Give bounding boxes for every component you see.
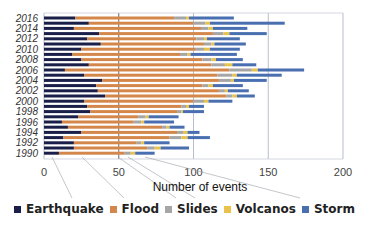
x-tick-label: 200 [334,166,352,178]
bar-1997 [44,115,179,118]
bar-2001 [44,95,255,98]
bar-segment-earthquake [44,53,72,56]
bar-2015 [44,22,285,25]
bar-segment-earthquake [44,136,63,139]
bar-segment-flood [72,53,180,56]
bar-segment-volcanos [186,105,189,108]
bar-segment-slides [162,126,166,129]
bar-segment-volcanos [225,89,228,92]
bar-segment-storm [188,136,210,139]
bar-segment-flood [68,126,162,129]
bar-segment-volcanos [232,95,236,98]
legend-swatch-icon [224,206,231,213]
x-axis-title: Number of events [153,180,248,194]
y-tick-label: 2002 [15,85,39,96]
bar-segment-storm [210,48,240,51]
bar-segment-storm [183,110,204,113]
bar-segment-earthquake [44,95,105,98]
bar-segment-earthquake [44,37,87,40]
bar-2012 [44,37,240,40]
bar-segment-storm [191,53,237,56]
bar-segment-slides [125,152,131,155]
bar-segment-volcanos [188,53,191,56]
bar-segment-flood [84,74,217,77]
bar-segment-slides [196,37,203,40]
bar-2002 [44,89,249,92]
bar-segment-storm [237,74,282,77]
bar-segment-storm [216,58,243,61]
bar-segment-storm [208,100,232,103]
bar-segment-slides [195,48,204,51]
bar-segment-volcanos [186,17,189,20]
legend: EarthquakeFloodSlidesVolcanosStorm [0,202,369,216]
bar-segment-earthquake [44,43,101,46]
bar-segment-slides [180,53,187,56]
bar-segment-flood [89,22,194,25]
bar-segment-storm [144,141,169,144]
bar-segment-earthquake [44,17,75,20]
bar-segment-earthquake [44,69,65,72]
legend-swatch-icon [302,206,309,213]
bar-segment-slides [202,84,208,87]
bar-2011 [44,43,246,46]
y-tick-label: 1998 [16,106,39,117]
legend-label: Volcanos [236,202,296,216]
bar-segment-slides [174,17,186,20]
bar-segment-volcanos [211,58,215,61]
y-tick-label: 2008 [15,54,39,65]
bar-segment-slides [219,89,225,92]
bar-segment-slides [219,79,231,82]
bar-segment-flood [74,27,201,30]
bar-segment-flood [62,121,134,124]
bar-segment-flood [63,136,169,139]
bar-segment-earthquake [44,27,74,30]
bar-segment-flood [102,79,219,82]
bar-segment-slides [194,100,204,103]
bar-segment-flood [90,110,177,113]
bar-segment-slides [137,141,141,144]
bar-segment-slides [204,43,211,46]
bar-segment-flood [74,141,137,144]
y-tick-label: 2004 [15,75,39,86]
bar-segment-storm [210,22,285,25]
bar-segment-storm [237,95,255,98]
bar-segment-storm [207,37,240,40]
legend-swatch-icon [165,206,172,213]
bar-segment-flood [75,17,174,20]
bar-segment-storm [189,105,204,108]
bar-segment-flood [81,131,177,134]
legend-label: Storm [314,202,355,216]
bar-segment-volcanos [204,37,207,40]
bar-segment-earthquake [44,22,89,25]
y-tick-label: 2010 [15,44,39,55]
bar-segment-slides [177,110,181,113]
y-tick-label: 1992 [16,137,39,148]
bar-segment-earthquake [44,131,81,134]
bar-segment-slides [182,105,186,108]
bar-segment-storm [161,147,189,150]
legend-swatch-icon [14,206,21,213]
bar-segment-flood [96,84,202,87]
bar-1995 [44,126,185,129]
x-tick-label: 50 [113,166,125,178]
y-tick-label: 1996 [16,117,39,128]
bar-segment-slides [217,74,232,77]
bar-segment-earthquake [44,147,74,150]
bar-segment-volcanos [167,126,170,129]
bar-2013 [44,32,267,35]
bar-segment-volcanos [155,147,161,150]
bar-segment-storm [189,17,234,20]
bar-segment-flood [78,115,138,118]
bar-segment-slides [147,147,154,150]
legend-label: Slides [177,202,218,216]
bar-segment-flood [87,37,196,40]
bar-series [44,17,304,155]
bar-segment-volcanos [205,22,209,25]
bar-segment-storm [135,152,154,155]
bar-segment-flood [101,43,204,46]
bar-segment-earthquake [44,48,81,51]
bar-segment-storm [258,69,304,72]
bar-2008 [44,58,243,61]
bar-segment-earthquake [44,152,59,155]
legend-item-earthquake: Earthquake [14,202,104,216]
